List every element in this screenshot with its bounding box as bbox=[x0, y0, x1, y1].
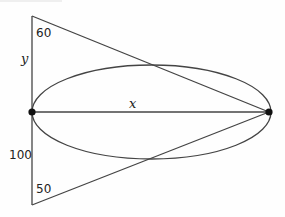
label-y: y bbox=[20, 51, 29, 66]
right-dot bbox=[265, 108, 272, 115]
label-bottom-angle: 50 bbox=[36, 182, 51, 196]
diagram-canvas: 60 y x 100 50 bbox=[0, 0, 285, 217]
triangle-lower-side bbox=[32, 112, 269, 205]
label-top-angle: 60 bbox=[36, 26, 51, 40]
label-x: x bbox=[129, 96, 137, 111]
triangle-upper-side bbox=[32, 16, 269, 112]
geometry-figure: 60 y x 100 50 bbox=[0, 0, 285, 217]
left-dot bbox=[28, 108, 35, 115]
label-100: 100 bbox=[9, 148, 32, 162]
